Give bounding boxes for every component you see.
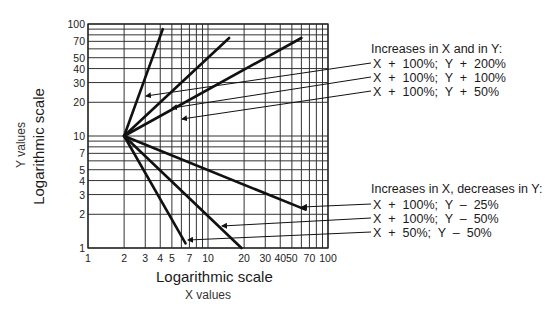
y-tick-label: 30	[73, 77, 85, 89]
y-tick-label: 20	[73, 96, 85, 108]
y-axis-subtitle: Y values	[14, 115, 28, 175]
y-tick-label: 2	[79, 208, 85, 220]
x-tick-label: 20	[238, 252, 250, 264]
y-tick-label: 10	[73, 130, 85, 142]
x-axis-title: Logarithmic scale	[156, 268, 273, 285]
leader-arrow	[182, 91, 371, 119]
y-axis-title: Logarithmic scale	[30, 82, 47, 212]
x-tick-label: 2	[121, 252, 127, 264]
data-lines	[124, 29, 305, 248]
y-tick-label: 4	[79, 175, 85, 187]
y-tick-label: 1	[79, 242, 85, 254]
y-tick-label: 40	[73, 63, 85, 75]
leader-arrow	[146, 63, 371, 96]
annotation-increase-3: X + 100%; Y + 50%	[373, 85, 499, 100]
x-tick-label: 100	[319, 252, 337, 264]
x-tick-label: 10	[202, 252, 214, 264]
annotation-increase-heading: Increases in X and in Y:	[371, 42, 502, 57]
x-tick-label: 30	[259, 252, 271, 264]
annotation-increase-2: X + 100%; Y + 100%	[373, 71, 506, 86]
data-line	[124, 136, 185, 243]
x-tick-label: 40	[274, 252, 286, 264]
y-tick-label: 5	[79, 164, 85, 176]
x-tick-label: 7	[186, 252, 192, 264]
y-tick-label: 70	[73, 35, 85, 47]
annotation-decrease-3: X + 50%; Y – 50%	[373, 226, 492, 241]
x-tick-label: 4	[157, 252, 163, 264]
annotation-leaders	[146, 63, 371, 240]
x-tick-label: 50	[286, 252, 298, 264]
annotation-increase-1: X + 100%; Y + 200%	[373, 57, 506, 72]
y-tick-label: 100	[67, 18, 85, 30]
x-tick-label: 3	[142, 252, 148, 264]
y-tick-label: 3	[79, 189, 85, 201]
leader-arrow	[302, 204, 371, 207]
annotation-decrease-2: X + 100%; Y – 50%	[373, 212, 499, 227]
leader-arrow	[188, 232, 371, 240]
data-line	[124, 136, 241, 248]
x-tick-label: 70	[304, 252, 316, 264]
x-tick-label: 1	[85, 252, 91, 264]
annotation-decrease-1: X + 100%; Y – 25%	[373, 198, 499, 213]
x-axis-subtitle: X values	[185, 288, 231, 302]
y-tick-label: 50	[73, 52, 85, 64]
annotation-decrease-heading: Increases in X, decreases in Y:	[371, 182, 542, 197]
x-tick-label: 5	[169, 252, 175, 264]
y-tick-label: 7	[79, 147, 85, 159]
